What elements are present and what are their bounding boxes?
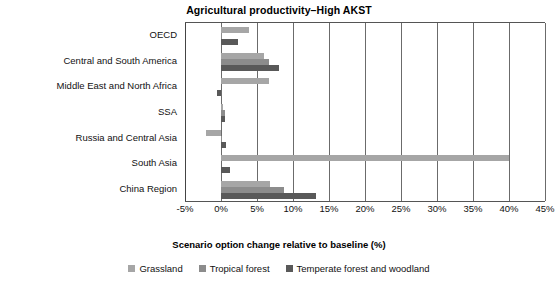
- x-axis-tick: 40%: [499, 203, 518, 214]
- legend-swatch-icon: [128, 265, 135, 272]
- x-axis-tick: 20%: [355, 203, 374, 214]
- bar: [221, 193, 316, 199]
- bar: [221, 65, 279, 71]
- x-axis-tick-labels: -5%0%5%10%15%20%25%30%35%40%45%: [185, 203, 545, 219]
- legend-swatch-icon: [199, 265, 206, 272]
- x-axis-title: Scenario option change relative to basel…: [0, 239, 558, 250]
- x-axis-tick: 0%: [214, 203, 228, 214]
- chart-container: Agricultural productivity–High AKST OECD…: [0, 0, 558, 282]
- gridline-30: [437, 23, 438, 201]
- y-axis-label: Russia and Central Asia: [0, 132, 177, 143]
- bar: [221, 78, 269, 84]
- bar: [221, 39, 238, 45]
- gridline-10: [293, 23, 294, 201]
- x-axis-tick: 10%: [283, 203, 302, 214]
- gridline-25: [401, 23, 402, 201]
- legend-label: Tropical forest: [210, 263, 270, 274]
- gridline-neg5: [185, 23, 186, 201]
- gridline-20: [365, 23, 366, 201]
- y-axis-category-labels: OECDCentral and South AmericaMiddle East…: [0, 22, 181, 202]
- bar: [221, 27, 249, 33]
- bar: [221, 116, 225, 122]
- chart-legend: GrasslandTropical forestTemperate forest…: [0, 263, 558, 274]
- gridline-35: [473, 23, 474, 201]
- legend-swatch-icon: [286, 265, 293, 272]
- y-axis-label: Central and South America: [0, 55, 177, 66]
- legend-label: Temperate forest and woodland: [297, 263, 430, 274]
- y-axis-label: China Region: [0, 183, 177, 194]
- x-axis-tick: 45%: [535, 203, 554, 214]
- x-axis-tick: 30%: [427, 203, 446, 214]
- y-axis-label: SSA: [0, 106, 177, 117]
- bar: [217, 90, 221, 96]
- bar: [206, 130, 221, 136]
- x-axis-tick: 5%: [250, 203, 264, 214]
- x-axis-tick: 25%: [391, 203, 410, 214]
- plot-area: [185, 22, 545, 202]
- bar: [221, 155, 509, 161]
- legend-entry: Tropical forest: [199, 263, 270, 274]
- legend-entry: Grassland: [128, 263, 182, 274]
- y-axis-label: OECD: [0, 29, 177, 40]
- gridline-5: [257, 23, 258, 201]
- chart-title: Agricultural productivity–High AKST: [0, 4, 558, 16]
- x-axis-tick: 35%: [463, 203, 482, 214]
- bar: [221, 167, 230, 173]
- gridline-40: [509, 23, 510, 201]
- legend-label: Grassland: [139, 263, 182, 274]
- y-axis-label: Middle East and North Africa: [0, 80, 177, 91]
- gridline-15: [329, 23, 330, 201]
- bar: [221, 142, 226, 148]
- x-axis-tick: -5%: [177, 203, 194, 214]
- y-axis-label: South Asia: [0, 157, 177, 168]
- legend-entry: Temperate forest and woodland: [286, 263, 430, 274]
- x-axis-tick: 15%: [319, 203, 338, 214]
- gridline-45: [545, 23, 546, 201]
